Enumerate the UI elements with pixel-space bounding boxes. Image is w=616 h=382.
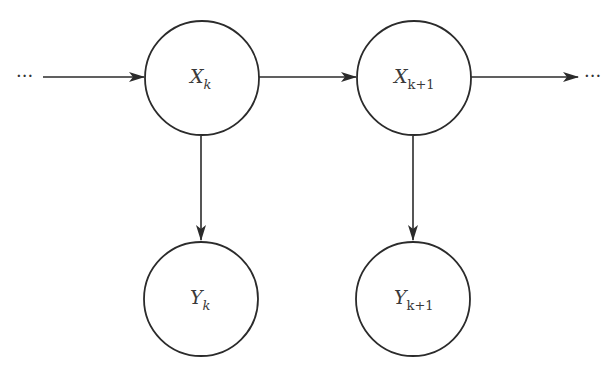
node-x-k: Xk (145, 21, 259, 135)
node-y-k-sub: k (203, 298, 211, 313)
hmm-diagram: ··· ··· Xk Xk+1 (0, 0, 616, 382)
ellipsis-right: ··· (584, 65, 601, 86)
node-x-k-base: X (188, 65, 205, 87)
diagram-svg: ··· ··· Xk Xk+1 (0, 0, 616, 382)
ellipsis-left: ··· (16, 65, 33, 86)
node-x-k1-base: X (392, 65, 409, 87)
node-x-k-sub: k (204, 77, 212, 92)
node-x-k1: Xk+1 (357, 21, 471, 135)
node-y-k1: Yk+1 (356, 242, 470, 356)
node-x-k1-sub: k+1 (408, 77, 435, 92)
node-y-k1-sub: k+1 (407, 298, 434, 313)
node-y-k: Yk (144, 242, 258, 356)
